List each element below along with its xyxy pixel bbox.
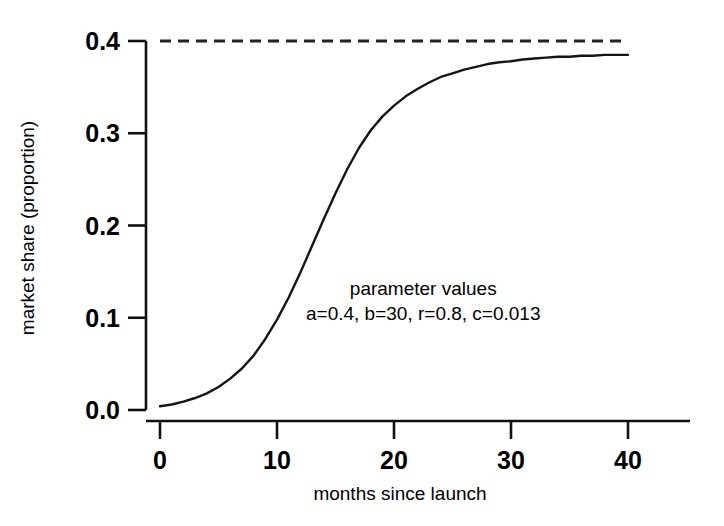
x-tick-label: 20 [380,446,408,474]
y-tick-label: 0.1 [85,304,120,332]
y-tick-label: 0.4 [85,27,120,55]
y-tick-label: 0.2 [85,212,120,240]
x-tick-label: 10 [263,446,291,474]
chart-figure: 0.00.10.20.30.4 010203040 months since l… [0,0,724,526]
x-axis-tick-labels: 010203040 [153,446,642,474]
market-share-curve [160,55,628,406]
x-tick-label: 40 [614,446,642,474]
parameter-values-heading: parameter values [350,278,497,299]
x-tick-label: 30 [497,446,525,474]
x-axis-ticks [160,421,628,439]
y-axis-tick-labels: 0.00.10.20.30.4 [85,27,120,424]
y-axis-ticks [128,41,146,410]
chart-plot-area: 0.00.10.20.30.4 010203040 months since l… [0,0,724,526]
parameter-values-line: a=0.4, b=30, r=0.8, c=0.013 [306,303,541,324]
y-tick-label: 0.3 [85,119,120,147]
y-axis-title: market share (proportion) [17,121,38,335]
x-tick-label: 0 [153,446,167,474]
x-axis-title: months since launch [313,483,486,504]
y-tick-label: 0.0 [85,396,120,424]
